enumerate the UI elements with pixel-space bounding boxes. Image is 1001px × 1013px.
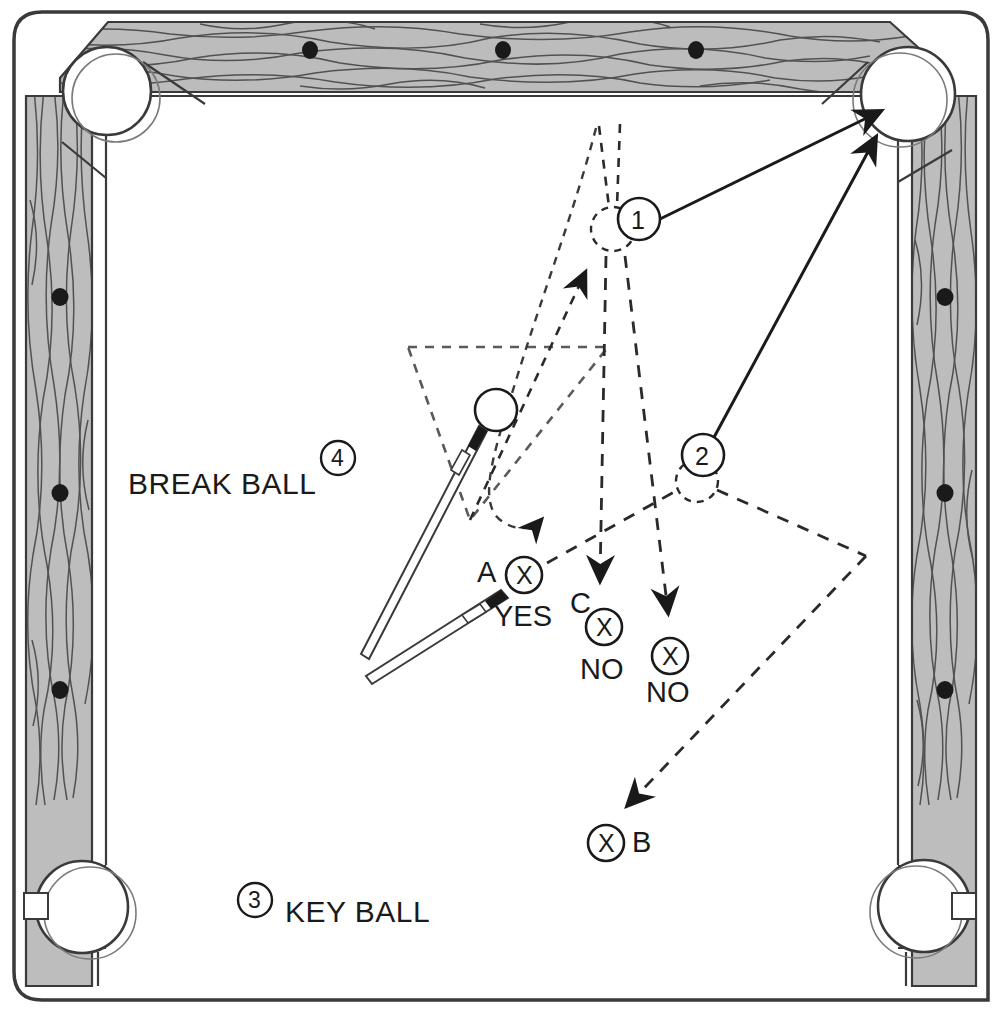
break-ball bbox=[475, 389, 517, 431]
break-ball-label: BREAK BALL bbox=[128, 467, 316, 501]
marker-b-label: B bbox=[632, 826, 651, 859]
diamond-left-1 bbox=[52, 288, 69, 306]
marker-no-right-x-glyph: X bbox=[662, 642, 679, 671]
diamond-left-3 bbox=[52, 681, 69, 699]
diamond-top-3 bbox=[688, 41, 704, 59]
marker-c-x-glyph: X bbox=[596, 613, 613, 642]
diamond-right-3 bbox=[937, 681, 954, 699]
marker-no-right-answer: NO bbox=[646, 676, 690, 709]
left-rail bbox=[26, 90, 93, 986]
break-ball-badge: 4 bbox=[331, 445, 344, 472]
table-svg bbox=[0, 0, 1001, 1013]
ball-2-number: 2 bbox=[695, 442, 709, 471]
right-rail bbox=[912, 90, 978, 986]
marker-a-x-glyph: X bbox=[516, 561, 533, 590]
diamond-left-2 bbox=[52, 484, 69, 502]
top-right-corner-pocket bbox=[861, 47, 955, 141]
key-ball-badge: 3 bbox=[248, 887, 261, 914]
billiards-diagram: BREAK BALL 4 KEY BALL 3 1 2 X A YES X C … bbox=[0, 0, 1001, 1013]
key-ball-label: KEY BALL bbox=[285, 895, 430, 929]
marker-c-answer: NO bbox=[580, 653, 624, 686]
diamond-right-2 bbox=[937, 484, 954, 502]
diamond-top-2 bbox=[495, 41, 511, 59]
diamond-right-1 bbox=[937, 288, 954, 306]
marker-a-label: A bbox=[477, 556, 496, 589]
marker-b-x-glyph: X bbox=[598, 829, 615, 858]
marker-a-answer: YES bbox=[494, 600, 552, 633]
diamond-top-1 bbox=[302, 41, 318, 59]
table-frame bbox=[14, 12, 988, 1000]
marker-c-label: C bbox=[570, 587, 591, 620]
ball-1-number: 1 bbox=[631, 206, 645, 235]
